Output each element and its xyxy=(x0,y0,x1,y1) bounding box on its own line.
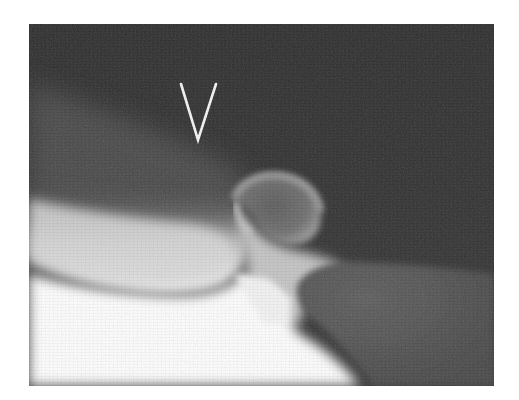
xray-rendering xyxy=(29,24,494,386)
xray-image xyxy=(29,24,494,386)
page: V xyxy=(0,0,519,400)
film-grain xyxy=(29,24,494,386)
